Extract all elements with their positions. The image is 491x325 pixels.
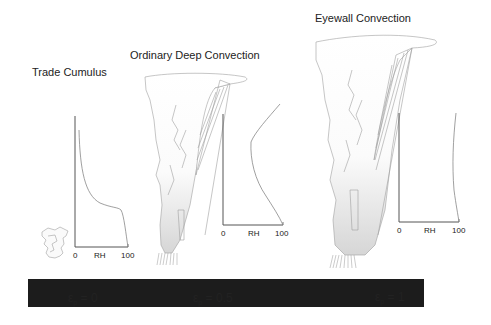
rh-axis-max-1: 100: [121, 251, 134, 260]
diagram-canvas: [0, 0, 491, 325]
rh-profile-plot-3: [399, 113, 459, 222]
rh-axis-label-3: RH: [424, 226, 436, 235]
rh-axis-min-1: 0: [73, 251, 77, 260]
epsilon-label-2: εp = 0.5: [193, 291, 233, 306]
rh-axis-min-2: 0: [221, 229, 225, 238]
rh-axis-max-3: 100: [452, 226, 465, 235]
rh-axis-label-2: RH: [248, 229, 260, 238]
epsilon-label-3: εp = 1: [375, 290, 405, 305]
trade-cumulus-cloud: [42, 227, 68, 258]
rh-axis-min-3: 0: [397, 226, 401, 235]
epsilon-label-1: εp = 0: [68, 291, 98, 306]
ordinary-deep-convection-cloud: [145, 73, 247, 253]
rh-axis-label-1: RH: [94, 251, 106, 260]
eyewall-rain-shafts: [330, 255, 356, 268]
rh-profile-plot-1: [75, 116, 128, 247]
ordinary-deep-rain-shafts: [157, 253, 177, 265]
rh-axis-max-2: 100: [275, 229, 288, 238]
rh-profile-plot-2: [223, 104, 283, 225]
